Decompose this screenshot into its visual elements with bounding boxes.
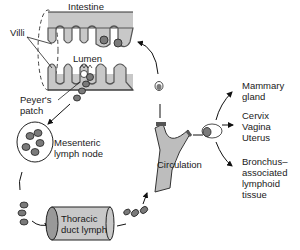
cells-bottom-right bbox=[123, 205, 149, 218]
label-bronchus-3: lymphoid bbox=[242, 178, 280, 189]
label-peyers-patch-1: Peyer's bbox=[20, 94, 51, 105]
label-mesenteric-1: Mesenteric bbox=[54, 137, 100, 148]
label-bronchus-2: associated bbox=[242, 167, 287, 178]
intestine-tube bbox=[38, 10, 133, 90]
cells-left bbox=[18, 202, 28, 225]
villi-pointer-2 bbox=[27, 37, 52, 68]
label-bronchus-1: Bronchus– bbox=[242, 156, 287, 167]
label-lumen: Lumen bbox=[73, 53, 102, 64]
label-circulation: Circulation bbox=[157, 159, 202, 170]
label-thoracic-2: duct lymph bbox=[61, 224, 107, 235]
label-cervix: Cervix bbox=[242, 110, 269, 121]
label-mammary-1: Mammary bbox=[242, 80, 284, 91]
label-uterus: Uterus bbox=[242, 132, 270, 143]
label-bronchus-4: tissue bbox=[242, 189, 267, 200]
label-mammary-2: gland bbox=[242, 91, 265, 102]
label-vagina: Vagina bbox=[242, 121, 271, 132]
circulation-vessel bbox=[155, 122, 191, 192]
lymphocyte-homing-diagram: Intestine Villi Lumen Peyer's patch Mese… bbox=[0, 0, 300, 250]
label-thoracic-1: Thoracic bbox=[61, 213, 97, 224]
mesenteric-lymph-node bbox=[17, 122, 53, 162]
label-villi: Villi bbox=[10, 27, 25, 38]
label-peyers-patch-2: patch bbox=[20, 105, 43, 116]
label-mesenteric-2: lymph node bbox=[54, 148, 103, 159]
label-intestine: Intestine bbox=[68, 1, 104, 12]
